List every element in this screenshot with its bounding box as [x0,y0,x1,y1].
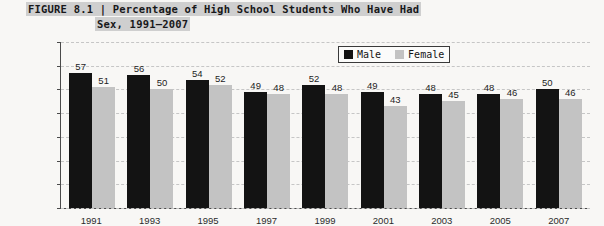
bar-group: 4943 [361,42,407,208]
x-axis-label-2007: 2007 [536,215,582,226]
bar-rect [267,94,290,208]
bar-rect [442,101,465,208]
figure-title-line-2: Sex, 1991–2007 [95,17,190,31]
bar-value-label: 48 [425,82,436,93]
legend-item-male: Male [344,49,381,60]
bar-male-2007[interactable]: 50 [536,42,559,208]
bar-rect [477,94,500,208]
bar-rect [150,89,173,208]
bar-rect [384,106,407,208]
bar-value-label: 46 [507,87,518,98]
bar-rect [302,85,325,208]
bar-male-1999[interactable]: 52 [302,42,325,208]
x-axis-label-2001: 2001 [360,215,406,226]
legend-item-female: Female [395,49,444,60]
bar-groups: 575156505452494852484943484548465046 [61,42,590,208]
bar-value-label: 54 [192,68,203,79]
bar-value-label: 57 [75,61,86,72]
bar-rect [186,80,209,208]
legend-swatch-female-icon [395,50,404,59]
bar-male-1993[interactable]: 56 [127,42,150,208]
plot-area: 0%10%20%30%40%50%60%70% 5751565054524948… [60,42,590,209]
bar-value-label: 49 [367,80,378,91]
y-axis-tick [57,208,61,209]
bar-rect [536,89,559,208]
bar-rect [500,99,523,208]
x-axis-label-2005: 2005 [477,215,523,226]
bar-value-label: 48 [484,82,495,93]
gridline [61,208,590,209]
bar-chart: Male Female 0%10%20%30%40%50%60%70% 5751… [0,36,604,226]
bar-rect [419,94,442,208]
bar-male-1991[interactable]: 57 [69,42,92,208]
x-axis-labels: 199119931995199719992001200320052007 [60,215,590,226]
bar-value-label: 49 [250,80,261,91]
bar-female-1999[interactable]: 48 [325,42,348,208]
bar-rect [92,87,115,208]
bar-value-label: 50 [542,77,553,88]
x-axis-label-1997: 1997 [244,215,290,226]
bar-rect [127,75,150,208]
figure-container: FIGURE 8.1 | Percentage of High School S… [0,0,604,226]
bar-male-2003[interactable]: 48 [419,42,442,208]
x-axis-label-1991: 1991 [68,215,114,226]
bar-rect [559,99,582,208]
bar-rect [325,94,348,208]
bar-group: 4948 [244,42,290,208]
bar-female-1997[interactable]: 48 [267,42,290,208]
bar-rect [361,92,384,208]
figure-title: FIGURE 8.1 | Percentage of High School S… [26,2,422,31]
bar-group: 5248 [302,42,348,208]
bar-group: 4846 [477,42,523,208]
bar-female-2001[interactable]: 43 [384,42,407,208]
bar-male-2001[interactable]: 49 [361,42,384,208]
bar-rect [209,85,232,208]
bar-value-label: 45 [448,89,459,100]
x-axis-label-2003: 2003 [419,215,465,226]
bar-value-label: 48 [273,82,284,93]
bar-male-2005[interactable]: 48 [477,42,500,208]
bar-value-label: 56 [134,63,145,74]
bar-female-2005[interactable]: 46 [500,42,523,208]
bar-group: 4845 [419,42,465,208]
bar-female-1995[interactable]: 52 [209,42,232,208]
x-axis-label-1995: 1995 [185,215,231,226]
bar-female-2007[interactable]: 46 [559,42,582,208]
bar-value-label: 52 [215,73,226,84]
x-axis-label-1993: 1993 [127,215,173,226]
legend-swatch-male-icon [344,50,353,59]
bar-female-1993[interactable]: 50 [150,42,173,208]
bar-value-label: 52 [309,73,320,84]
bar-group: 5751 [69,42,115,208]
bar-female-2003[interactable]: 45 [442,42,465,208]
legend-label-female: Female [408,49,444,60]
bar-group: 5452 [186,42,232,208]
bar-male-1997[interactable]: 49 [244,42,267,208]
figure-title-line-1: FIGURE 8.1 | Percentage of High School S… [26,2,421,16]
bar-value-label: 51 [98,75,109,86]
bar-value-label: 48 [332,82,343,93]
bar-rect [244,92,267,208]
bar-group: 5046 [536,42,582,208]
chart-legend: Male Female [338,46,450,63]
bar-value-label: 43 [390,94,401,105]
legend-label-male: Male [357,49,381,60]
bar-group: 5650 [127,42,173,208]
bar-rect [69,73,92,208]
bar-value-label: 46 [565,87,576,98]
bar-male-1995[interactable]: 54 [186,42,209,208]
bar-value-label: 50 [157,77,168,88]
bar-female-1991[interactable]: 51 [92,42,115,208]
x-axis-label-1999: 1999 [302,215,348,226]
